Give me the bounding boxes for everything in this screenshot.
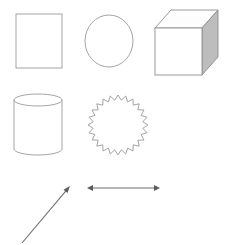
circle-outline[interactable] (85, 15, 133, 67)
cylinder-top-ellipse[interactable] (14, 94, 62, 106)
arrow-head-right-icon[interactable] (154, 185, 160, 191)
arrow-head-left-icon[interactable] (87, 185, 93, 191)
shape-starburst[interactable] (88, 95, 148, 155)
starburst-outline[interactable] (88, 95, 148, 155)
shape-cube[interactable] (155, 10, 218, 75)
cylinder-body[interactable] (14, 100, 62, 155)
cube-front-face[interactable] (155, 28, 202, 75)
shape-cylinder[interactable] (14, 94, 62, 155)
diagonal-arrow-shaft[interactable] (22, 189, 67, 243)
shape-circle[interactable] (85, 15, 133, 67)
diagonal-arrow[interactable] (22, 186, 70, 243)
shape-drawing-surface (0, 0, 230, 245)
square-outline[interactable] (16, 14, 62, 68)
shapes-canvas: Square Circle Cube Cylinder Explosion / … (0, 0, 230, 245)
shape-square[interactable] (16, 14, 62, 68)
double-headed-arrow[interactable] (87, 185, 160, 191)
